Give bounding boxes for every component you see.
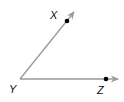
point-z xyxy=(104,77,109,82)
angle-diagram: X Y Z xyxy=(0,0,124,102)
label-x: X xyxy=(49,9,58,21)
point-x xyxy=(65,19,70,24)
label-z: Z xyxy=(96,84,105,96)
label-y: Y xyxy=(9,83,17,95)
